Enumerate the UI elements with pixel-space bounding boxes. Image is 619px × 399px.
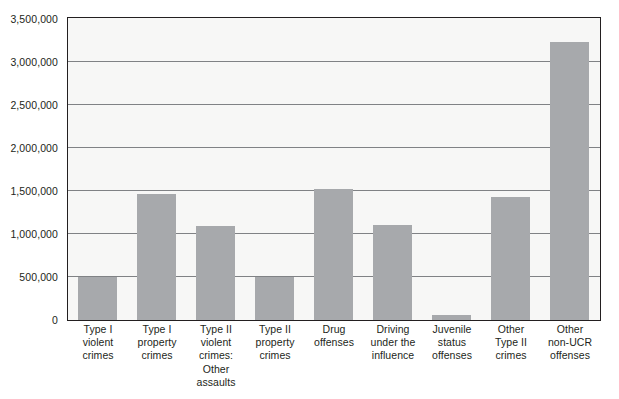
x-tick-label-line: Other — [187, 363, 246, 376]
y-tick-label: 1,500,000 — [10, 185, 58, 197]
x-tick-label: Drugoffenses — [305, 323, 364, 349]
bars-layer — [68, 18, 600, 320]
x-tick-label-line: crimes: — [187, 349, 246, 362]
x-tick-label-line: crimes — [128, 349, 187, 362]
x-tick-label-line: property — [246, 336, 305, 349]
x-tick-label: Type IIviolentcrimes:Otherassaults — [187, 323, 246, 389]
x-tick-label-line: Other — [541, 323, 600, 336]
x-tick-label-line: assaults — [187, 376, 246, 389]
bar — [432, 315, 472, 320]
x-tick-label-line: under the — [364, 336, 423, 349]
x-tick-label-line: Drug — [305, 323, 364, 336]
x-tick-label-line: Other — [482, 323, 541, 336]
bar — [491, 197, 531, 320]
bar — [314, 189, 354, 320]
x-tick-label-line: property — [128, 336, 187, 349]
x-tick-label-line: Type II — [187, 323, 246, 336]
x-tick-label: Type Ipropertycrimes — [128, 323, 187, 363]
bar — [550, 42, 590, 320]
x-tick-label-line: Driving — [364, 323, 423, 336]
x-tick-label-line: offenses — [305, 336, 364, 349]
y-tick-label: 2,000,000 — [10, 142, 58, 154]
x-tick-label-line: crimes — [246, 349, 305, 362]
bar — [196, 226, 236, 320]
y-tick-label: 3,500,000 — [10, 13, 58, 25]
y-axis: 3,500,0003,000,0002,500,0002,000,0001,50… — [0, 0, 66, 399]
x-tick-label: Type IIpropertycrimes — [246, 323, 305, 363]
x-tick-label-line: Type I — [69, 323, 128, 336]
bar — [255, 277, 295, 320]
x-tick-label-line: crimes — [482, 349, 541, 362]
x-tick-label: Drivingunder theinfluence — [364, 323, 423, 363]
x-tick-label-line: Type II — [246, 323, 305, 336]
x-tick-label-line: Juvenile — [423, 323, 482, 336]
y-tick-label: 0 — [52, 314, 58, 326]
x-tick-label-line: influence — [364, 349, 423, 362]
x-tick-label-line: violent — [187, 336, 246, 349]
x-tick-label-line: non-UCR — [541, 336, 600, 349]
bar-chart: 3,500,0003,000,0002,500,0002,000,0001,50… — [0, 0, 619, 399]
x-tick-label: Juvenilestatusoffenses — [423, 323, 482, 363]
x-tick-label-line: violent — [69, 336, 128, 349]
x-tick-label: Type Iviolentcrimes — [69, 323, 128, 363]
y-tick-label: 500,000 — [19, 271, 58, 283]
x-tick-label-line: offenses — [541, 349, 600, 362]
x-tick-label-line: offenses — [423, 349, 482, 362]
x-tick-label-line: Type II — [482, 336, 541, 349]
x-tick-label-line: crimes — [69, 349, 128, 362]
y-tick-label: 2,500,000 — [10, 99, 58, 111]
x-axis: Type IviolentcrimesType IpropertycrimesT… — [67, 323, 601, 399]
x-tick-label: Othernon-UCRoffenses — [541, 323, 600, 363]
x-tick-label: OtherType IIcrimes — [482, 323, 541, 363]
plot-area — [67, 17, 601, 321]
bar — [373, 225, 413, 320]
bar — [137, 194, 177, 320]
x-tick-label-line: status — [423, 336, 482, 349]
bar — [78, 277, 118, 320]
y-tick-label: 3,000,000 — [10, 56, 58, 68]
x-tick-label-line: Type I — [128, 323, 187, 336]
y-tick-label: 1,000,000 — [10, 228, 58, 240]
